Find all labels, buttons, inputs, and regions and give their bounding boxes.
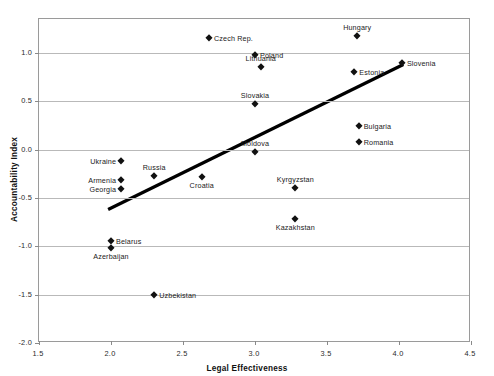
- data-point-label: Kyrgyzstan: [277, 175, 314, 184]
- y-axis-tick-label: -0.5: [18, 192, 32, 201]
- x-axis-tick-label: 2.0: [105, 349, 116, 358]
- x-axis-tick-label: 3.0: [249, 349, 260, 358]
- gridline-horizontal: [39, 198, 469, 199]
- x-axis-tick-label: 1.5: [33, 349, 44, 358]
- x-axis-tick-mark: [327, 341, 328, 345]
- data-point-marker: [292, 185, 299, 192]
- scatter-chart-figure: Czech Rep.PolandLithuaniaHungarySlovenia…: [0, 0, 494, 376]
- data-point-label: Ukraine: [90, 157, 116, 166]
- plot-area: Czech Rep.PolandLithuaniaHungarySlovenia…: [38, 18, 470, 342]
- data-point-label: Hungary: [343, 23, 371, 32]
- x-axis-tick-label: 3.5: [321, 349, 332, 358]
- gridline-horizontal: [39, 246, 469, 247]
- data-point-marker: [205, 35, 212, 42]
- y-axis-tick-mark: [35, 198, 39, 199]
- data-point-marker: [355, 123, 362, 130]
- data-point-label: Romania: [364, 137, 394, 146]
- data-point-marker: [257, 64, 264, 71]
- data-point-marker: [351, 69, 358, 76]
- data-point-marker: [292, 216, 299, 223]
- data-point-marker: [151, 291, 158, 298]
- data-point-label: Georgia: [89, 185, 116, 194]
- data-point-label: Uzbekistan: [159, 290, 196, 299]
- y-axis-tick-label: 0.0: [21, 144, 32, 153]
- x-axis-tick-label: 4.5: [465, 349, 476, 358]
- y-axis-title: Accountability Index: [10, 137, 19, 222]
- data-point-label: Slovakia: [241, 91, 269, 100]
- data-point-marker: [117, 176, 124, 183]
- x-axis-tick-mark: [183, 341, 184, 345]
- y-axis-tick-label: 1.0: [21, 47, 32, 56]
- data-point-label: Lithuania: [245, 54, 276, 63]
- y-axis-tick-mark: [35, 53, 39, 54]
- data-point-label: Kazakhstan: [276, 223, 315, 232]
- data-point-marker: [117, 186, 124, 193]
- data-point-label: Croatia: [190, 181, 214, 190]
- x-axis-tick-mark: [471, 341, 472, 345]
- gridline-horizontal: [39, 295, 469, 296]
- x-axis-tick-mark: [39, 341, 40, 345]
- data-point-label: Belarus: [116, 237, 141, 246]
- x-axis-tick-label: 4.0: [393, 349, 404, 358]
- data-point-marker: [354, 33, 361, 40]
- y-axis-tick-mark: [35, 150, 39, 151]
- data-point-label: Estonia: [359, 68, 384, 77]
- x-axis-tick-mark: [255, 341, 256, 345]
- x-axis-title: Legal Effectiveness: [0, 364, 494, 373]
- y-axis-tick-label: 0.5: [21, 96, 32, 105]
- x-axis-tick-mark: [111, 341, 112, 345]
- data-point-marker: [398, 59, 405, 66]
- data-point-marker: [117, 158, 124, 165]
- data-point-label: Moldova: [241, 139, 269, 148]
- x-axis-tick-label: 2.5: [177, 349, 188, 358]
- data-point-label: Azerbaijan: [93, 252, 128, 261]
- data-point-label: Russia: [143, 163, 166, 172]
- y-axis-tick-label: -1.0: [18, 241, 32, 250]
- data-point-marker: [151, 172, 158, 179]
- data-point-label: Slovenia: [407, 58, 436, 67]
- data-point-label: Armenia: [88, 175, 116, 184]
- data-point-label: Czech Rep.: [214, 34, 253, 43]
- y-axis-tick-mark: [35, 101, 39, 102]
- y-axis-tick-mark: [35, 295, 39, 296]
- data-point-marker: [198, 173, 205, 180]
- data-point-marker: [355, 138, 362, 145]
- y-axis-tick-mark: [35, 246, 39, 247]
- data-point-label: Bulgaria: [364, 122, 392, 131]
- y-axis-tick-label: -1.5: [18, 289, 32, 298]
- x-axis-tick-mark: [399, 341, 400, 345]
- y-axis-tick-label: -2.0: [18, 338, 32, 347]
